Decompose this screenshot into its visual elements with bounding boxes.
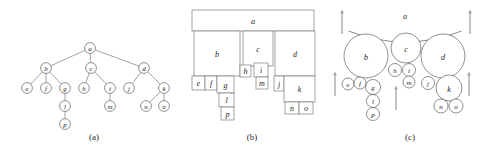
- tree-node-m[interactable]: m: [105, 101, 116, 112]
- rect-node-label: a: [251, 17, 255, 26]
- packed-circle-label: e: [346, 81, 349, 89]
- rect-node-k[interactable]: k: [284, 76, 315, 102]
- tree-edge-k-n: [150, 92, 160, 102]
- tree-edge-d-j: [132, 72, 141, 83]
- rect-node-label: p: [225, 110, 230, 119]
- panel-a-caption: (a): [74, 132, 114, 142]
- tree-edge-d-k: [148, 72, 160, 84]
- tree-node-label: j: [127, 85, 130, 93]
- packed-circle-l[interactable]: l: [367, 95, 380, 108]
- rect-node-label: b: [215, 50, 219, 59]
- tree-node-o[interactable]: o: [159, 101, 170, 112]
- panel-c-circle-packing: a bcdefghijklmnop: [335, 12, 470, 121]
- tree-node-l[interactable]: l: [60, 101, 71, 112]
- packed-circle-b[interactable]: b: [344, 34, 388, 78]
- rect-node-h[interactable]: h: [240, 65, 251, 77]
- rect-node-label: m: [259, 79, 265, 88]
- rect-node-i[interactable]: i: [254, 63, 268, 77]
- rect-node-p[interactable]: p: [221, 107, 234, 120]
- rectangle-group: abcdefghijklmnop: [192, 10, 315, 120]
- tree-node-b[interactable]: b: [41, 63, 52, 74]
- tree-node-f[interactable]: f: [41, 83, 52, 94]
- packed-circle-i[interactable]: i: [403, 64, 416, 77]
- tree-node-label: b: [44, 65, 48, 73]
- tree-node-a[interactable]: a: [85, 43, 96, 54]
- packed-circle-label: g: [371, 84, 375, 92]
- packed-circle-f[interactable]: f: [354, 77, 366, 89]
- tree-node-label: o: [162, 103, 166, 111]
- tree-node-label: e: [25, 85, 28, 93]
- panel-c-caption: (c): [390, 132, 430, 142]
- rect-node-label: c: [256, 45, 260, 54]
- tree-node-label: d: [142, 65, 146, 73]
- packed-circle-h[interactable]: h: [389, 64, 402, 77]
- packed-circle-k[interactable]: k: [436, 75, 462, 101]
- root-arc-label: a: [403, 12, 407, 21]
- tree-node-label: a: [88, 45, 92, 53]
- rect-node-label: e: [197, 79, 201, 88]
- tree-node-label: p: [62, 121, 67, 129]
- tree-node-p[interactable]: p: [60, 119, 71, 130]
- rect-node-l[interactable]: l: [219, 93, 234, 107]
- tree-edge-b-g: [50, 72, 62, 84]
- tree-node-label: i: [109, 85, 111, 93]
- packed-circle-n[interactable]: n: [434, 99, 448, 113]
- tree-node-j[interactable]: j: [124, 83, 135, 94]
- packed-circle-label: l: [372, 98, 374, 106]
- panel-b-caption: (b): [232, 132, 272, 142]
- tree-node-group: abcdefghijklmnop: [22, 43, 170, 130]
- tree-edge-c-h: [86, 73, 89, 83]
- rect-node-d[interactable]: d: [275, 31, 315, 76]
- tree-node-label: g: [63, 85, 67, 93]
- tree-node-e[interactable]: e: [22, 83, 33, 94]
- packed-circle-m[interactable]: m: [403, 76, 415, 88]
- packed-circle-label: p: [370, 111, 375, 119]
- tree-node-d[interactable]: d: [139, 63, 150, 74]
- packed-circle-j[interactable]: j: [422, 77, 435, 90]
- tree-node-i[interactable]: i: [105, 83, 116, 94]
- tree-node-h[interactable]: h: [79, 83, 90, 94]
- rect-node-o[interactable]: o: [299, 102, 313, 114]
- packed-circle-label: h: [393, 67, 397, 75]
- packed-circle-label: b: [364, 53, 368, 62]
- packed-circle-p[interactable]: p: [367, 108, 380, 121]
- tree-edge-c-i: [95, 72, 107, 84]
- packed-circle-e[interactable]: e: [342, 78, 354, 90]
- rect-node-n[interactable]: n: [285, 102, 299, 114]
- panel-a-node-link-tree: abcdefghijklmnop: [22, 43, 170, 130]
- tree-node-n[interactable]: n: [141, 101, 152, 112]
- packed-circle-c[interactable]: c: [391, 33, 421, 63]
- rect-node-a[interactable]: a: [192, 10, 314, 31]
- tree-node-c[interactable]: c: [86, 63, 97, 74]
- packed-circle-g[interactable]: g: [366, 80, 381, 95]
- packed-circle-label: k: [447, 85, 451, 94]
- packed-circle-o[interactable]: o: [449, 99, 463, 113]
- tree-node-g[interactable]: g: [60, 83, 71, 94]
- panel-b-nested-rectangles: abcdefghijklmnop: [192, 10, 315, 120]
- rect-node-c[interactable]: c: [243, 31, 273, 66]
- packed-circle-label: o: [454, 103, 458, 111]
- rect-node-label: i: [260, 66, 262, 75]
- rect-node-label: o: [304, 104, 308, 113]
- rect-node-j[interactable]: j: [274, 76, 284, 91]
- rect-node-label: n: [290, 104, 294, 113]
- packed-circle-d[interactable]: d: [421, 34, 465, 78]
- rect-node-f[interactable]: f: [205, 76, 217, 90]
- rect-node-label: h: [244, 67, 248, 76]
- circle-group: bcdefghijklmnop: [342, 33, 465, 121]
- tree-node-k[interactable]: k: [159, 83, 170, 94]
- rect-node-b[interactable]: b: [194, 31, 240, 76]
- packed-circle-label: m: [406, 79, 411, 87]
- rect-node-g[interactable]: g: [217, 76, 234, 93]
- rect-node-label: k: [298, 85, 302, 94]
- tree-edge-a-b: [51, 50, 85, 66]
- rect-node-m[interactable]: m: [256, 77, 268, 89]
- packed-circle-label: c: [404, 45, 408, 54]
- packed-circle-label: i: [408, 67, 410, 75]
- packed-circle-label: j: [426, 80, 429, 88]
- tree-node-label: h: [82, 85, 86, 93]
- tree-edge-a-d: [95, 50, 139, 66]
- tree-node-label: l: [64, 103, 66, 111]
- rect-node-e[interactable]: e: [192, 76, 205, 90]
- packed-circle-label: n: [439, 103, 443, 111]
